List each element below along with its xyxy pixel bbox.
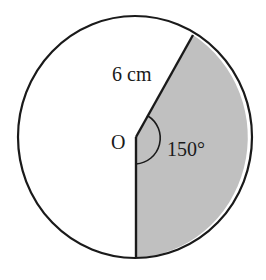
center-label: O bbox=[111, 131, 125, 153]
circle-sector-diagram: 6 cm O 150° bbox=[0, 0, 266, 280]
angle-label: 150° bbox=[167, 138, 205, 160]
radius-label: 6 cm bbox=[112, 63, 152, 85]
